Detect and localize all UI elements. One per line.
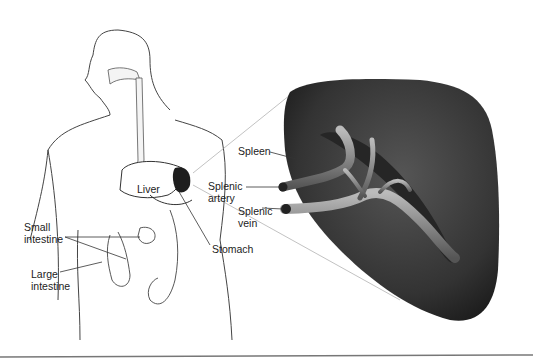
- label-spleen: Spleen: [238, 145, 271, 157]
- bottom-rule: [0, 355, 533, 357]
- intestines: [107, 210, 177, 304]
- label-splenic-vein: Splenic vein: [238, 205, 272, 229]
- label-large-intestine: Large intestine: [31, 268, 70, 292]
- label-liver: Liver: [137, 183, 160, 195]
- spleen-small: [173, 167, 190, 192]
- label-stomach: Stomach: [212, 243, 253, 255]
- label-splenic-artery: Splenic artery: [208, 180, 242, 204]
- label-small-intestine: Small intestine: [24, 221, 63, 245]
- anatomy-illustration: [0, 0, 533, 360]
